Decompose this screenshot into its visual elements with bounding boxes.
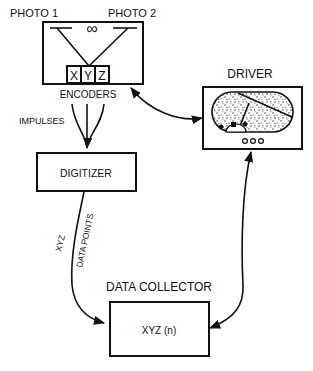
infinity-symbol: ∞ (86, 20, 97, 37)
impulses-label: IMPULSES (19, 116, 65, 126)
driver-node: DRIVER (203, 67, 302, 149)
encoder-y-label: Y (84, 69, 92, 83)
driver-square (231, 122, 236, 127)
driver-button-3 (259, 139, 264, 144)
data-collector-node: DATA COLLECTOR XYZ (n) (106, 280, 212, 356)
driver-label: DRIVER (227, 67, 273, 81)
data-collector-label: XYZ (n) (142, 325, 176, 336)
driver-collector-link (210, 152, 251, 328)
digitizer-node: DIGITIZER (37, 153, 136, 191)
camera-unit: PHOTO 1 PHOTO 2 ∞ X Y Z ENCODERS (10, 7, 156, 100)
driver-button-1 (243, 139, 248, 144)
encoders-label: ENCODERS (60, 89, 117, 100)
impulses-connector: IMPULSES (19, 104, 104, 148)
driver-button-2 (251, 139, 256, 144)
photo1-label: PHOTO 1 (10, 7, 58, 19)
encoder-x-label: X (70, 69, 78, 83)
system-diagram: PHOTO 1 PHOTO 2 ∞ X Y Z ENCODERS IMPULSE… (0, 0, 313, 371)
data-points-connector: XYZ DATA POINTS (53, 192, 104, 323)
photo2-label: PHOTO 2 (108, 7, 156, 19)
data-collector-title: DATA COLLECTOR (106, 280, 212, 294)
camera-driver-link (131, 88, 202, 119)
xyz-label: XYZ (53, 234, 67, 252)
encoder-z-label: Z (98, 69, 105, 83)
digitizer-label: DIGITIZER (60, 167, 112, 179)
